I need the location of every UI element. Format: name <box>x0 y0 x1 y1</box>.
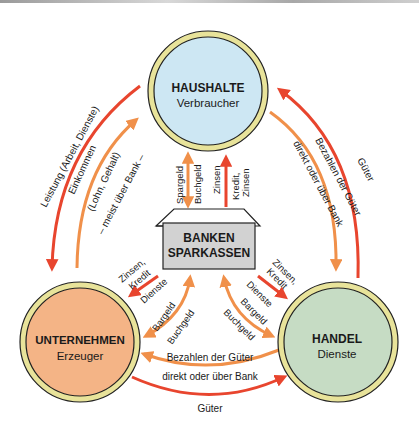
unternehmen-subtitle: Erzeuger <box>57 350 104 362</box>
handel-subtitle: Dienste <box>318 348 357 360</box>
label-gueter-bottom: Güter <box>197 403 223 414</box>
economic-cycle-diagram: BANKEN SPARKASSEN HAUSHALTE Verbraucher … <box>0 0 419 432</box>
bank-title-line2: SPARKASSEN <box>168 246 250 260</box>
unternehmen-node: UNTERNEHMEN Erzeuger <box>20 282 140 402</box>
handel-title: HANDEL <box>312 332 362 346</box>
handel-node: HANDEL Dienste <box>278 282 398 402</box>
haushalte-node: HAUSHALTE Verbraucher <box>148 31 268 151</box>
label-zinsen-hh: Zinsen <box>211 165 222 194</box>
label-bezahlen-bottom-1: Bezahlen der Güter <box>167 352 254 363</box>
label-spargeld: Spargeld <box>174 166 185 204</box>
label-buchgeld-hh: Buchgeld <box>192 164 203 204</box>
label-zinsen-hh-2: Zinsen <box>240 168 251 197</box>
label-bezahlen-bottom-2: direkt oder über Bank <box>162 371 259 382</box>
haushalte-title: HAUSHALTE <box>171 81 244 95</box>
haushalte-subtitle: Verbraucher <box>177 97 240 109</box>
bank-title-line1: BANKEN <box>183 231 234 245</box>
label-gueter-right: Güter <box>355 156 377 184</box>
bank-node: BANKEN SPARKASSEN <box>156 209 260 269</box>
unternehmen-title: UNTERNEHMEN <box>35 334 124 346</box>
